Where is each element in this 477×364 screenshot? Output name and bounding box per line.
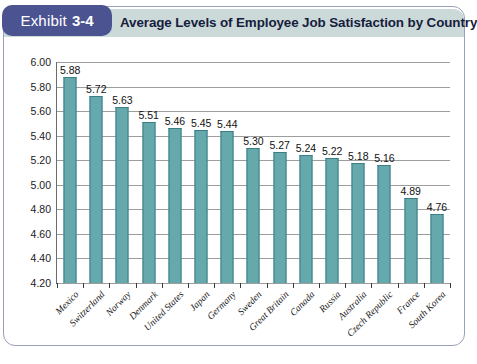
bar-slot: 5.46United States [162, 62, 188, 283]
x-axis-tick [109, 283, 110, 288]
bar-slot: 5.24Canada [293, 62, 319, 283]
bar[interactable] [142, 122, 155, 283]
chart-area: 6.005.805.605.405.205.004.804.604.404.20… [0, 40, 469, 340]
x-axis-tick [188, 283, 189, 288]
bar[interactable] [352, 163, 365, 283]
bar-slot: 4.76South Korea [424, 62, 450, 283]
exhibit-badge: Exhibit 3-4 [2, 5, 112, 36]
chart-bars: 5.88Mexico5.72Switzerland5.63Norway5.51D… [57, 62, 450, 283]
bar-value-label: 5.44 [217, 118, 237, 130]
bar[interactable] [195, 130, 208, 283]
x-axis-tick [424, 283, 425, 288]
x-axis-tick [136, 283, 137, 288]
x-axis-tick [398, 283, 399, 288]
chart-plot-area: 6.005.805.605.405.205.004.804.604.404.20… [56, 62, 450, 284]
bar-value-label: 4.89 [400, 185, 420, 197]
exhibit-badge-number: 3-4 [72, 12, 94, 29]
x-axis-tick [162, 283, 163, 288]
bar-value-label: 5.27 [269, 139, 289, 151]
bar[interactable] [326, 158, 339, 283]
y-axis-tick-label: 5.40 [31, 130, 51, 142]
bar-value-label: 5.51 [138, 109, 158, 121]
bar-value-label: 5.46 [165, 115, 185, 127]
x-axis-tick [83, 283, 84, 288]
y-axis-tick-label: 5.80 [31, 81, 51, 93]
bar[interactable] [90, 96, 103, 283]
bar-value-label: 5.45 [191, 117, 211, 129]
bar[interactable] [299, 155, 312, 283]
bar-slot: 5.27Great Britain [267, 62, 293, 283]
bar-slot: 5.30Sweden [240, 62, 266, 283]
x-axis-tick [267, 283, 268, 288]
exhibit-badge-word: Exhibit [20, 12, 66, 29]
x-axis-tick [57, 283, 58, 288]
bar-value-label: 5.88 [60, 64, 80, 76]
bar-value-label: 5.24 [296, 142, 316, 154]
bar[interactable] [168, 128, 181, 283]
bar[interactable] [430, 214, 443, 283]
bar[interactable] [247, 148, 260, 283]
bar-slot: 5.45Japan [188, 62, 214, 283]
bar-value-label: 5.22 [322, 145, 342, 157]
bar-value-label: 5.72 [86, 83, 106, 95]
x-axis-tick-label: Germany [205, 289, 238, 322]
x-axis-tick [240, 283, 241, 288]
bar-slot: 5.72Switzerland [83, 62, 109, 283]
bar-value-label: 5.16 [374, 152, 394, 164]
y-axis-tick-label: 6.00 [31, 56, 51, 68]
bar-slot: 4.89France [398, 62, 424, 283]
bar-slot: 5.16Czech Republic [371, 62, 397, 283]
x-axis-tick [345, 283, 346, 288]
bar-slot: 5.51Denmark [136, 62, 162, 283]
x-axis-tick [371, 283, 372, 288]
bar-slot: 5.63Norway [109, 62, 135, 283]
x-axis-tick-label: Canada [287, 289, 316, 318]
bar[interactable] [273, 152, 286, 283]
bar[interactable] [378, 165, 391, 283]
x-axis-tick [214, 283, 215, 288]
x-axis-tick [319, 283, 320, 288]
y-axis-tick-label: 5.20 [31, 154, 51, 166]
bar[interactable] [221, 131, 234, 283]
y-axis-tick-label: 5.00 [31, 179, 51, 191]
bar-value-label: 5.63 [112, 94, 132, 106]
bar[interactable] [116, 107, 129, 283]
bar-slot: 5.88Mexico [57, 62, 83, 283]
y-axis-tick-label: 4.40 [31, 252, 51, 264]
y-axis-tick-label: 5.60 [31, 105, 51, 117]
y-axis-tick-label: 4.20 [31, 277, 51, 289]
bar-value-label: 5.18 [348, 150, 368, 162]
gridline [57, 283, 450, 284]
bar[interactable] [404, 198, 417, 283]
bar-value-label: 5.30 [243, 135, 263, 147]
x-axis-tick [450, 283, 451, 288]
x-axis-tick [293, 283, 294, 288]
bar-slot: 5.18Australia [345, 62, 371, 283]
exhibit-title: Average Levels of Employee Job Satisfact… [120, 12, 477, 34]
bar-slot: 5.44Germany [214, 62, 240, 283]
y-axis-tick-label: 4.60 [31, 228, 51, 240]
bar[interactable] [64, 77, 77, 283]
y-axis-tick-label: 4.80 [31, 203, 51, 215]
bar-value-label: 4.76 [427, 201, 447, 213]
bar-slot: 5.22Russia [319, 62, 345, 283]
